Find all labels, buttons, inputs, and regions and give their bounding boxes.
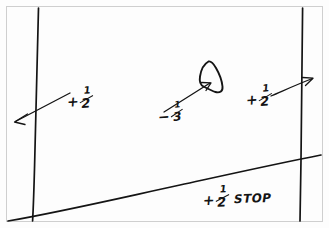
label-left-sign: + bbox=[67, 94, 80, 109]
label-right-fraction: 12 bbox=[257, 87, 273, 110]
label-exposure-center: −13 bbox=[157, 104, 184, 128]
sketch-canvas: +12 −13 +12 +12STOP bbox=[0, 0, 329, 228]
diagonal-line bbox=[8, 155, 321, 221]
label-center-numerator: 1 bbox=[174, 99, 181, 110]
label-center-denominator: 3 bbox=[172, 110, 181, 124]
arrow-right bbox=[271, 79, 313, 97]
label-bottom-denominator: 2 bbox=[216, 195, 227, 208]
arrow-left bbox=[16, 93, 71, 122]
vertical-line-left bbox=[33, 8, 39, 221]
label-left-numerator: 1 bbox=[83, 85, 91, 95]
label-center-sign: − bbox=[158, 109, 170, 124]
label-bottom-fraction: 12 bbox=[214, 188, 230, 211]
label-left-denominator: 2 bbox=[80, 96, 90, 110]
label-exposure-bottom: +12STOP bbox=[203, 187, 272, 211]
label-right-denominator: 2 bbox=[259, 94, 269, 108]
label-bottom-sign: + bbox=[202, 193, 215, 207]
label-bottom-numerator: 1 bbox=[219, 184, 227, 194]
label-bottom-unit: STOP bbox=[233, 192, 272, 205]
label-exposure-right: +12 bbox=[245, 87, 273, 111]
label-right-numerator: 1 bbox=[262, 83, 270, 94]
vertical-line-right bbox=[300, 8, 303, 221]
label-left-fraction: 12 bbox=[78, 89, 94, 112]
label-right-sign: + bbox=[246, 92, 258, 107]
label-center-fraction: 13 bbox=[169, 104, 185, 127]
label-exposure-left: +12 bbox=[66, 89, 94, 112]
